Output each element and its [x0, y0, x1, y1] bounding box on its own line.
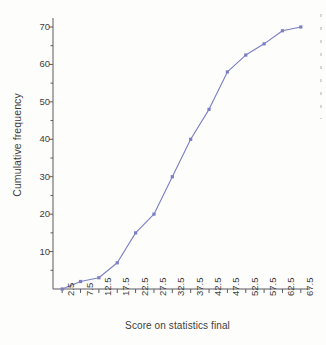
x-axis-tick-label: 7.5 [85, 283, 95, 296]
x-axis-tick-label: 47.5 [231, 278, 241, 297]
x-axis-tick-label: 12.5 [103, 278, 113, 297]
cumulative-frequency-chart: Cumulative frequency 10203040506070 2.57… [0, 0, 326, 345]
x-axis-tick-labels: 2.57.512.517.522.527.532.537.542.547.552… [0, 0, 326, 345]
x-axis-title: Score on statistics final [40, 320, 315, 331]
x-axis-tick-label: 62.5 [286, 278, 296, 297]
x-axis-tick-label: 42.5 [213, 278, 223, 297]
x-axis-tick-label: 67.5 [305, 278, 315, 297]
x-axis-tick-label: 57.5 [268, 278, 278, 297]
x-axis-tick-label: 17.5 [121, 278, 131, 297]
x-axis-tick-label: 32.5 [176, 278, 186, 297]
x-axis-tick-label: 52.5 [250, 278, 260, 297]
scan-edge-artifact [320, 14, 322, 119]
x-axis-tick-label: 22.5 [140, 278, 150, 297]
x-axis-tick-label: 37.5 [195, 278, 205, 297]
x-axis-tick-label: 27.5 [158, 278, 168, 297]
x-axis-tick-label: 2.5 [66, 283, 76, 296]
